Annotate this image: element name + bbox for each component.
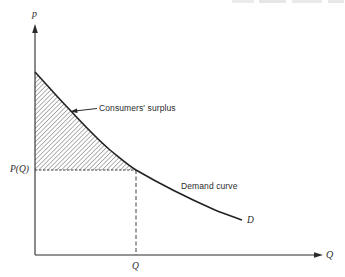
curve-end-label: D <box>247 216 254 226</box>
chart-canvas <box>0 0 345 277</box>
x-axis-arrow-icon <box>314 252 323 258</box>
consumer-surplus-figure: p Q P(Q) Q Consumers' surplus Demand cur… <box>0 0 345 277</box>
price-tick-label: P(Q) <box>10 165 29 175</box>
y-axis-arrow-icon <box>32 24 38 33</box>
consumer-surplus-area <box>35 72 136 170</box>
surplus-pointer-line <box>75 109 97 112</box>
quantity-tick-label: Q <box>132 262 139 272</box>
y-axis-label: p <box>32 9 37 19</box>
surplus-annotation: Consumers' surplus <box>99 104 176 113</box>
x-axis-label: Q <box>326 250 333 260</box>
demand-curve-annotation: Demand curve <box>181 182 237 191</box>
